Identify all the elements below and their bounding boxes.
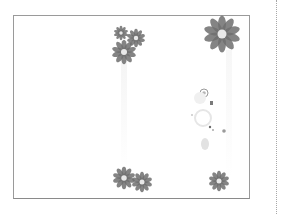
flower-bottom-left-2-icon [130, 170, 154, 194]
flower-bottom-right-icon [207, 169, 231, 193]
flower-top-left-large-icon [110, 38, 138, 66]
bubble-cluster-decoration [188, 85, 238, 155]
stem-decoration [121, 60, 127, 170]
dotted-divider [276, 0, 277, 214]
flower-top-right-large-icon [202, 14, 242, 54]
